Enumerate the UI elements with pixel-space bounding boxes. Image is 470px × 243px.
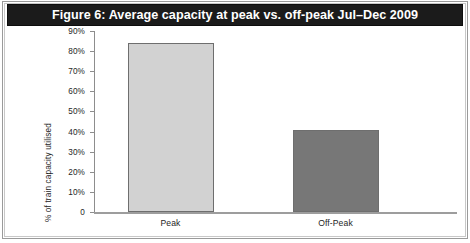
y-axis-tick-mark bbox=[90, 212, 94, 213]
y-axis-tick-mark bbox=[90, 152, 94, 153]
plot-area: % of train capacity utilised 90%80%70%60… bbox=[0, 26, 470, 236]
y-axis-tick-mark bbox=[90, 71, 94, 72]
y-axis-tick-mark bbox=[90, 51, 94, 52]
y-axis-tick-mark bbox=[90, 111, 94, 112]
y-axis-tick-mark bbox=[90, 172, 94, 173]
y-axis-tick-mark bbox=[90, 91, 94, 92]
figure-title-bar: Figure 6: Average capacity at peak vs. o… bbox=[7, 4, 463, 26]
bar-peak bbox=[128, 43, 214, 212]
y-axis-tick-mark bbox=[90, 192, 94, 193]
x-axis-category-label: Off-Peak bbox=[318, 218, 353, 228]
x-axis-category-label: Peak bbox=[161, 218, 181, 228]
figure-title: Figure 6: Average capacity at peak vs. o… bbox=[52, 8, 418, 22]
bar-series bbox=[0, 26, 470, 236]
figure-container: Figure 6: Average capacity at peak vs. o… bbox=[0, 0, 470, 243]
y-axis-tick-mark bbox=[90, 132, 94, 133]
y-axis-tick-mark bbox=[90, 31, 94, 32]
x-axis-category-labels: PeakOff-Peak bbox=[0, 218, 470, 234]
bar-off-peak bbox=[293, 130, 379, 212]
